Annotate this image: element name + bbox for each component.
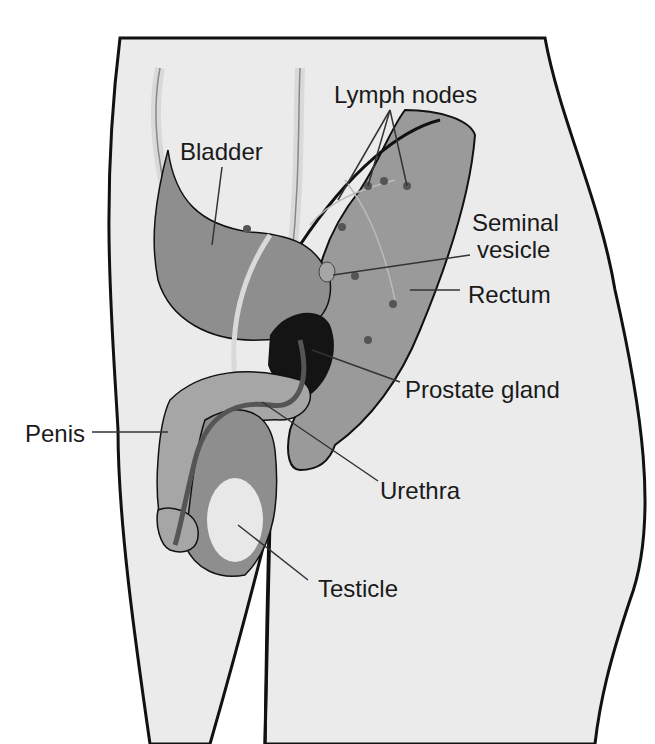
label-rectum: Rectum	[468, 283, 551, 307]
label-penis: Penis	[25, 422, 85, 446]
label-bladder: Bladder	[180, 140, 263, 164]
label-lymph-nodes: Lymph nodes	[334, 83, 477, 107]
label-seminal-vesicle-line2: vesicle	[477, 237, 550, 262]
anatomy-diagram: Lymph nodes Bladder Seminal vesicle Rect…	[0, 0, 655, 744]
anatomy-illustration	[0, 0, 655, 744]
label-seminal-vesicle-line1: Seminal	[472, 210, 559, 235]
label-prostate-gland: Prostate gland	[405, 378, 560, 402]
label-testicle: Testicle	[318, 577, 398, 601]
label-urethra: Urethra	[380, 479, 460, 503]
testicle-shape	[207, 478, 263, 562]
